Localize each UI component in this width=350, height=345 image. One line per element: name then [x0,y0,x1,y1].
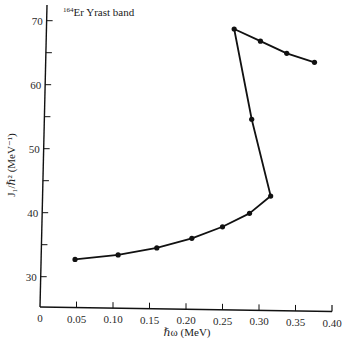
data-point [258,39,263,44]
isotope-mass-superscript: 164 [63,6,74,14]
x-tick-label: 0.05 [67,313,87,325]
x-axis-ticks: 00.050.100.150.200.250.300.350.40 [37,302,342,329]
x-tick-label: 0.25 [213,315,233,327]
y-axis-ticks: 3040506070 [26,15,53,283]
x-tick-label: 0.20 [176,314,196,326]
data-point [72,257,77,262]
chart-annotation: 164Er Yrast band [63,6,135,18]
x-tick-label: 0.15 [140,314,160,326]
x-tick-label: 0.10 [103,313,123,325]
x-tick-label: 0.40 [322,317,342,329]
y-tick-label: 60 [30,79,42,91]
data-series [72,26,317,262]
data-point [232,26,237,31]
x-tick-label: 0.35 [286,316,306,328]
x-axis-title: ℏω (MeV) [163,326,210,339]
data-point [312,60,317,65]
y-tick-label: 50 [29,143,41,155]
data-point [220,224,225,229]
x-tick-label: 0 [37,312,43,324]
data-point [284,51,289,56]
data-point [268,193,273,198]
x-tick-label: 0.30 [249,315,269,327]
data-point [247,211,252,216]
data-point [116,252,121,257]
backbending-chart: 3040506070 00.050.100.150.200.250.300.35… [0,0,350,345]
y-axis-title: J₁/ℏ² (MeV⁻¹) [5,133,18,197]
series-line [75,29,314,259]
data-point [154,245,159,250]
y-tick-label: 40 [27,207,39,219]
data-point [189,236,194,241]
y-tick-label: 30 [26,271,38,283]
annotation-text: Er Yrast band [74,6,135,18]
y-tick-label: 70 [32,15,44,27]
data-point [249,117,254,122]
y-axis-line [40,5,47,307]
axes [40,5,332,312]
